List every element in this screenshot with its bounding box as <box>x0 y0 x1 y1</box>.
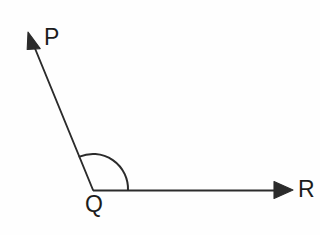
geometry-diagram: P Q R <box>0 0 320 235</box>
ray-qp-line <box>34 46 93 190</box>
ray-qr-arrowhead-icon <box>274 182 293 199</box>
point-label-p: P <box>44 26 59 49</box>
ray-qp-arrowhead-icon <box>27 32 40 50</box>
point-label-q: Q <box>85 193 103 216</box>
angle-pqr-arc <box>80 154 129 190</box>
point-label-r: R <box>298 178 315 201</box>
